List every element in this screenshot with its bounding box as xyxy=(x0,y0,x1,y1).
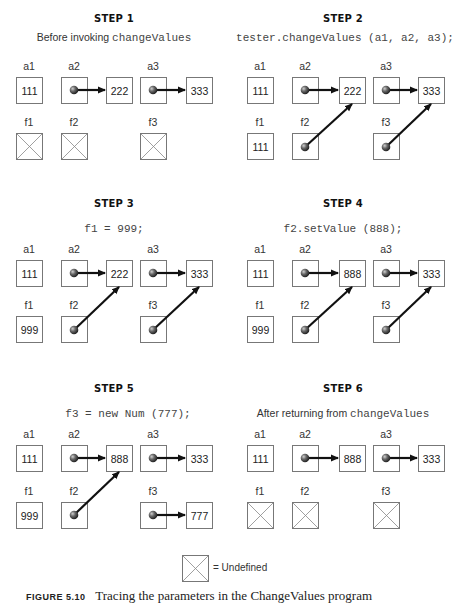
legend-text: = Undefined xyxy=(213,562,267,573)
f3-reference-box xyxy=(373,316,400,343)
f2-reference-box xyxy=(292,316,319,343)
f3-undefined-box xyxy=(373,502,400,529)
a1-value-box: 111 xyxy=(247,77,274,104)
a1-value-box: 111 xyxy=(247,260,274,287)
label-f3: f3 xyxy=(140,299,166,311)
label-a1: a1 xyxy=(16,243,42,255)
step-subtitle: f2.setValue (888); xyxy=(229,222,457,235)
label-f3: f3 xyxy=(140,116,166,128)
a3-reference-box xyxy=(373,445,400,472)
label-f2: f2 xyxy=(292,485,318,497)
f3-undefined-box xyxy=(140,133,167,160)
label-a2: a2 xyxy=(61,428,87,440)
label-a2: a2 xyxy=(292,428,318,440)
label-a3: a3 xyxy=(373,243,399,255)
step-subtitle: Before invoking changeValues xyxy=(0,31,228,44)
step-subtitle: f3 = new Num (777); xyxy=(14,407,242,420)
f2-reference-box xyxy=(61,316,88,343)
f1-undefined-box xyxy=(247,502,274,529)
label-a3: a3 xyxy=(373,428,399,440)
label-a2: a2 xyxy=(292,60,318,72)
a3-object-box: 333 xyxy=(418,77,445,104)
f1-value-box: 111 xyxy=(247,133,274,160)
step-3-arrows xyxy=(70,269,199,335)
a2-object-box: 222 xyxy=(106,77,133,104)
a2-reference-box xyxy=(292,260,319,287)
label-a1: a1 xyxy=(16,60,42,72)
step-subtitle: tester.changeValues (a1, a2, a3); xyxy=(231,31,457,44)
label-a2: a2 xyxy=(61,243,87,255)
a3-reference-box xyxy=(140,260,167,287)
label-f3: f3 xyxy=(373,299,399,311)
a2-object-box: 222 xyxy=(106,260,133,287)
undefined-x-icon xyxy=(374,503,399,528)
label-a1: a1 xyxy=(16,428,42,440)
subtitle-code: f1 = 999; xyxy=(84,223,143,235)
f3-object-box: 777 xyxy=(186,502,213,529)
figure-caption: FIGURE 5.10 Tracing the parameters in th… xyxy=(26,588,372,604)
label-a2: a2 xyxy=(61,60,87,72)
f1-undefined-box xyxy=(16,133,43,160)
a2-reference-box xyxy=(61,260,88,287)
a3-reference-box xyxy=(373,260,400,287)
undefined-x-icon xyxy=(248,503,273,528)
label-f2: f2 xyxy=(292,116,318,128)
a3-reference-box xyxy=(140,77,167,104)
step-title: STEP 3 xyxy=(0,198,228,209)
label-f3: f3 xyxy=(373,485,399,497)
subtitle-code: f2.setValue (888); xyxy=(284,223,403,235)
subtitle-code: tester.changeValues (a1, a2, a3); xyxy=(236,32,454,44)
label-a3: a3 xyxy=(140,428,166,440)
f3-reference-box xyxy=(373,133,400,160)
a2-object-box: 888 xyxy=(339,260,366,287)
a3-object-box: 333 xyxy=(186,77,213,104)
f2-undefined-box xyxy=(61,133,88,160)
step-title: STEP 4 xyxy=(229,198,457,209)
step-title: STEP 5 xyxy=(0,383,228,394)
a2-reference-box xyxy=(61,445,88,472)
a2-reference-box xyxy=(292,77,319,104)
caption-label: FIGURE 5.10 xyxy=(26,592,86,602)
subtitle-text: Before invoking xyxy=(37,31,112,43)
a3-object-box: 333 xyxy=(186,260,213,287)
a1-value-box: 111 xyxy=(247,445,274,472)
a2-reference-box xyxy=(61,77,88,104)
label-a1: a1 xyxy=(247,428,273,440)
subtitle-code: changeValues xyxy=(112,32,191,44)
f3-reference-box xyxy=(140,316,167,343)
legend-undefined-box xyxy=(182,555,209,582)
a3-object-box: 333 xyxy=(418,445,445,472)
step-title: STEP 6 xyxy=(229,383,457,394)
a2-object-box: 888 xyxy=(339,445,366,472)
caption-text: Tracing the parameters in the ChangeValu… xyxy=(95,588,372,603)
label-f2: f2 xyxy=(61,485,87,497)
a3-reference-box xyxy=(140,445,167,472)
subtitle-text: After returning from xyxy=(257,407,350,419)
subtitle-code: changeValues xyxy=(350,408,429,420)
f2-undefined-box xyxy=(292,502,319,529)
subtitle-code: f3 = new Num (777); xyxy=(65,408,190,420)
label-a1: a1 xyxy=(247,243,273,255)
label-f1: f1 xyxy=(16,116,42,128)
a2-object-box: 888 xyxy=(106,445,133,472)
label-f1: f1 xyxy=(16,299,42,311)
label-f1: f1 xyxy=(16,485,42,497)
step-title: STEP 1 xyxy=(0,13,228,24)
label-f2: f2 xyxy=(61,299,87,311)
undefined-x-icon xyxy=(62,134,87,159)
a1-value-box: 111 xyxy=(16,77,43,104)
label-f2: f2 xyxy=(61,116,87,128)
label-a3: a3 xyxy=(140,60,166,72)
a1-value-box: 111 xyxy=(16,260,43,287)
undefined-x-icon xyxy=(17,134,42,159)
a3-object-box: 333 xyxy=(418,260,445,287)
step-title: STEP 2 xyxy=(229,13,457,24)
f2-reference-box xyxy=(61,502,88,529)
a2-reference-box xyxy=(292,445,319,472)
undefined-x-icon xyxy=(293,503,318,528)
a1-value-box: 111 xyxy=(16,445,43,472)
label-f1: f1 xyxy=(247,299,273,311)
label-a1: a1 xyxy=(247,60,273,72)
label-a2: a2 xyxy=(292,243,318,255)
f1-value-box: 999 xyxy=(16,316,43,343)
